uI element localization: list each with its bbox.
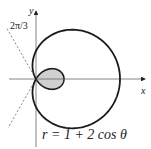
- equation-label: r = 1 + 2 cos θ: [42, 128, 127, 142]
- y-axis-label: y: [29, 6, 33, 16]
- x-axis-label: x: [141, 86, 145, 96]
- dashed-ray-2pi-3: [6, 27, 36, 79]
- limacon-diagram: y x 2π/3 r = 1 + 2 cos θ: [0, 0, 151, 149]
- dashed-ray-4pi-3: [8, 79, 36, 128]
- angle-label: 2π/3: [10, 21, 28, 31]
